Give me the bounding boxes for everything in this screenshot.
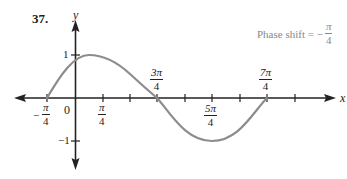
x-tick-label-neg-pi-4: π 4 (42, 102, 50, 127)
x-tick-label-pi-4: π 4 (98, 102, 106, 127)
x-tick-sign-neg-pi-4: − (33, 109, 39, 121)
origin-label: 0 (64, 104, 70, 116)
y-tick-label-1: 1 (63, 49, 69, 60)
x-tick-label-3pi-4: 3π 4 (150, 67, 163, 92)
x-axis (14, 94, 336, 102)
x-tick-label-5pi-4: 5π 4 (204, 103, 217, 128)
phase-shift-annotation: Phase shift = − π 4 (257, 21, 332, 46)
x-tick-label-7pi-4: 7π 4 (259, 67, 272, 92)
phase-shift-text: Phase shift = − (257, 28, 323, 40)
y-tick-label-neg1: −1 (58, 135, 70, 146)
problem-number: 37. (32, 12, 48, 25)
phase-shift-fraction: π 4 (325, 21, 333, 46)
x-axis-label: x (340, 92, 345, 104)
y-axis (71, 20, 80, 170)
y-axis-label: y (73, 9, 78, 21)
